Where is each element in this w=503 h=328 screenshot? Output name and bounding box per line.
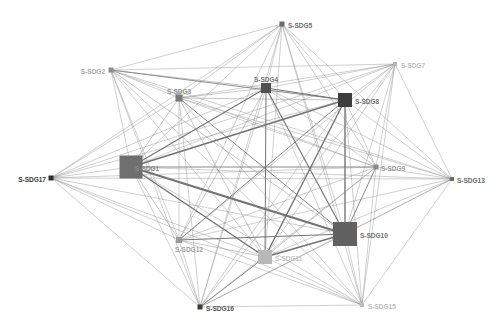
- edge-s-sdg3-s-sdg15: [179, 98, 362, 305]
- edge-s-sdg11-s-sdg15: [265, 257, 362, 305]
- edge-s-sdg3-s-sdg17: [51, 98, 179, 178]
- edge-s-sdg5-s-sdg9: [282, 24, 376, 167]
- edge-s-sdg7-s-sdg9: [376, 64, 395, 167]
- node-label-s-sdg5: S-SDG5: [288, 22, 313, 29]
- edge-s-sdg9-s-sdg17: [51, 167, 376, 178]
- edge-s-sdg1-s-sdg17: [51, 167, 131, 178]
- edge-s-sdg2-s-sdg13: [111, 70, 452, 179]
- node-s-sdg9[interactable]: [374, 165, 379, 170]
- edge-s-sdg4-s-sdg3: [179, 88, 266, 98]
- edge-s-sdg12-s-sdg17: [51, 178, 179, 240]
- node-s-sdg8[interactable]: [338, 93, 352, 107]
- node-label-s-sdg13: S-SDG13: [457, 177, 485, 184]
- node-label-s-sdg2: S-SDG2: [81, 68, 106, 75]
- edge-s-sdg8-s-sdg2: [111, 70, 345, 100]
- edge-s-sdg8-s-sdg5: [282, 24, 345, 100]
- edge-s-sdg5-s-sdg15: [282, 24, 362, 305]
- edge-s-sdg1-s-sdg15: [131, 167, 362, 305]
- edge-s-sdg2-s-sdg16: [111, 70, 200, 307]
- node-label-s-sdg8: S-SDG8: [355, 98, 380, 105]
- node-s-sdg15[interactable]: [360, 303, 364, 307]
- node-s-sdg5[interactable]: [280, 22, 285, 27]
- node-label-s-sdg17: S-SDG17: [18, 176, 46, 183]
- node-label-s-sdg9: S-SDG9: [381, 165, 406, 172]
- edge-s-sdg12-s-sdg15: [179, 240, 362, 305]
- edge-s-sdg2-s-sdg7: [111, 64, 395, 70]
- node-label-s-sdg10: S-SDG10: [360, 232, 388, 239]
- edge-s-sdg8-s-sdg7: [345, 64, 395, 100]
- node-label-s-sdg7: S-SDG7: [401, 62, 426, 69]
- edge-s-sdg10-s-sdg5: [282, 24, 345, 234]
- edge-s-sdg4-s-sdg7: [266, 64, 395, 88]
- edge-s-sdg11-s-sdg17: [51, 178, 265, 257]
- edge-s-sdg7-s-sdg13: [395, 64, 452, 179]
- node-s-sdg4[interactable]: [261, 83, 271, 93]
- edge-s-sdg4-s-sdg2: [111, 70, 266, 88]
- node-label-s-sdg1: S-SDG1: [135, 165, 160, 172]
- node-label-s-sdg16: S-SDG16: [206, 305, 234, 312]
- node-label-s-sdg12: S-SDG12: [175, 246, 203, 253]
- edge-s-sdg10-s-sdg7: [345, 64, 395, 234]
- node-label-s-sdg3: S-SDG3: [167, 88, 192, 95]
- edge-s-sdg5-s-sdg17: [51, 24, 282, 178]
- node-label-s-sdg11: S-SDG11: [275, 255, 303, 262]
- edge-s-sdg7-s-sdg17: [51, 64, 395, 178]
- edge-s-sdg10-s-sdg12: [179, 234, 345, 240]
- node-s-sdg17[interactable]: [49, 176, 54, 181]
- node-s-sdg10[interactable]: [333, 222, 357, 246]
- node-s-sdg7[interactable]: [393, 62, 397, 66]
- network-graph: S-SDG1S-SDG2S-SDG3S-SDG4S-SDG5S-SDG7S-SD…: [0, 0, 503, 328]
- node-s-sdg13[interactable]: [450, 177, 454, 181]
- edge-s-sdg4-s-sdg15: [266, 88, 362, 305]
- node-s-sdg2[interactable]: [109, 68, 114, 73]
- edge-s-sdg12-s-sdg13: [179, 179, 452, 240]
- node-s-sdg16[interactable]: [198, 305, 203, 310]
- node-s-sdg3[interactable]: [176, 95, 183, 102]
- node-label-s-sdg4: S-SDG4: [254, 76, 279, 83]
- edge-s-sdg5-s-sdg16: [200, 24, 282, 307]
- edge-s-sdg2-s-sdg5: [111, 24, 282, 70]
- edge-s-sdg11-s-sdg7: [265, 64, 395, 257]
- node-s-sdg11[interactable]: [258, 250, 272, 264]
- edge-s-sdg4-s-sdg11: [265, 88, 266, 257]
- node-label-s-sdg15: S-SDG15: [368, 303, 396, 310]
- node-s-sdg12[interactable]: [176, 237, 182, 243]
- edge-s-sdg1-s-sdg5: [131, 24, 282, 167]
- edge-s-sdg1-s-sdg16: [131, 167, 200, 307]
